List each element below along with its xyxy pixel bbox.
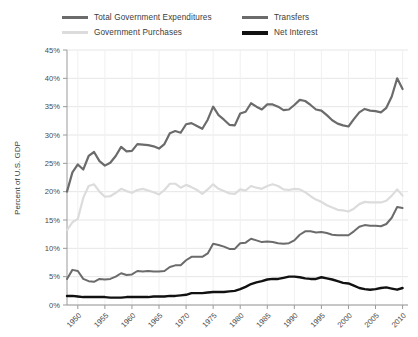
x-tick-label: 2005: [363, 311, 381, 329]
x-tick-label: 2010: [390, 311, 408, 329]
y-tick-label: 45%: [45, 46, 60, 55]
y-tick-label: 0%: [49, 301, 60, 310]
y-tick-label: 5%: [49, 272, 60, 281]
data-series: [67, 78, 403, 297]
x-tick-label: 1985: [254, 311, 272, 329]
series-line-net-interest: [67, 277, 403, 298]
x-tick-label: 1955: [92, 311, 110, 329]
x-tick-label: 1975: [200, 311, 218, 329]
chart-container: Total Government Expenditures Transfers …: [0, 0, 418, 337]
x-tick-label: 1980: [227, 311, 245, 329]
y-tick-label: 40%: [45, 74, 60, 83]
x-tick-labels: 1950195519601965197019751980198519901995…: [65, 311, 408, 329]
y-tick-label: 20%: [45, 187, 60, 196]
y-tick-label: 15%: [45, 216, 60, 225]
y-tick-label: 35%: [45, 102, 60, 111]
y-tick-label: 30%: [45, 131, 60, 140]
x-tick-label: 1960: [119, 311, 137, 329]
x-tick-label: 1970: [173, 311, 191, 329]
x-tick-label: 1995: [308, 311, 326, 329]
x-tick-label: 1950: [65, 311, 83, 329]
grid-vertical: [78, 50, 403, 305]
series-line-government-purchases: [67, 184, 403, 230]
y-tick-label: 25%: [45, 159, 60, 168]
y-axis-title: Percent of U.S. GDP: [13, 141, 22, 215]
x-tick-label: 2000: [336, 311, 354, 329]
x-tick-label: 1990: [281, 311, 299, 329]
grid-horizontal: [67, 50, 408, 305]
chart-plot: 0%5%10%15%20%25%30%35%40%45% 19501955196…: [0, 0, 418, 337]
y-tick-label: 10%: [45, 244, 60, 253]
series-line-transfers: [67, 207, 403, 282]
x-tick-label: 1965: [146, 311, 164, 329]
x-axis: [67, 305, 408, 309]
y-tick-labels: 0%5%10%15%20%25%30%35%40%45%: [45, 46, 60, 310]
y-axis: [63, 50, 67, 305]
